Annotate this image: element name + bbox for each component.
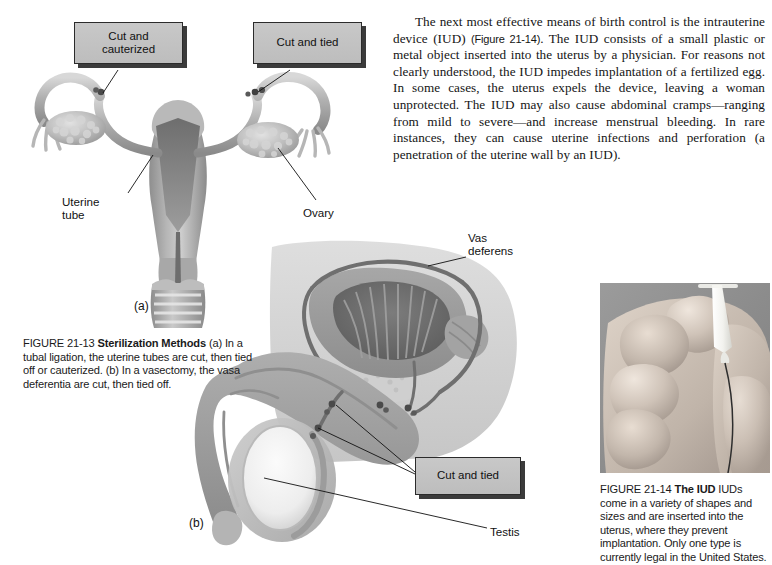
figure-21-13-caption: FIGURE 21-13 Sterilization Methods (a) I… <box>23 337 258 391</box>
right-tube-cut-site <box>245 87 265 97</box>
callout-cut-and-tied-female: Cut and tied <box>253 22 362 64</box>
vas-cut-site-left <box>310 425 321 439</box>
female-leader-lines <box>103 70 316 200</box>
figure-reference: (Figure 21-14) <box>471 33 540 45</box>
figure-21-14-caption-title: The IUD <box>675 483 716 495</box>
label-testis: Testis <box>490 525 520 538</box>
textbook-page: Cut and cauterized Cut and tied Cut and … <box>0 0 772 565</box>
body-text-part2: . The IUD consists of a small plastic or… <box>393 31 765 162</box>
label-ovary: Ovary <box>303 206 334 219</box>
panel-letter-a: (a) <box>134 299 149 313</box>
figure-21-14-caption: FIGURE 21-14 The IUD IUDs come in a vari… <box>600 483 770 565</box>
iud-photograph <box>600 283 770 473</box>
callout-cut-and-tied-male: Cut and tied <box>415 457 521 495</box>
left-tube-cut-site <box>93 87 104 95</box>
callout-cut-and-cauterized: Cut and cauterized <box>74 22 183 64</box>
figure-21-13-caption-title: Sterilization Methods <box>98 337 206 349</box>
body-text-column: The next most effective means of birth c… <box>393 14 765 163</box>
label-vas-deferens: Vas deferens <box>468 231 513 258</box>
vas-cut-site-right2 <box>405 405 417 416</box>
panel-letter-b: (b) <box>189 516 204 530</box>
figure-21-13-caption-number: FIGURE 21-13 <box>23 337 95 349</box>
figure-21-14-caption-number: FIGURE 21-14 <box>600 483 672 495</box>
vas-cut-site-upper <box>324 401 335 415</box>
iud-photo-art <box>600 283 770 473</box>
male-reproductive-tract <box>195 241 517 545</box>
body-paragraph: The next most effective means of birth c… <box>393 14 765 163</box>
label-uterine-tube: Uterine tube <box>62 195 99 222</box>
vas-cut-site-right <box>377 402 389 413</box>
